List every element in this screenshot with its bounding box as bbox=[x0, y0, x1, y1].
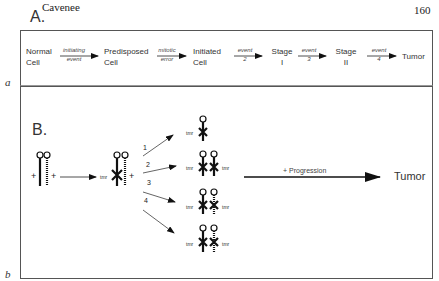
pathway-number-4: 4 bbox=[144, 197, 148, 204]
chromosome-pair-tmr bbox=[112, 152, 128, 186]
diagram-graphics bbox=[0, 0, 439, 281]
tmr-label-o2-left: tmr bbox=[186, 165, 193, 171]
chromosome-outcome-4 bbox=[199, 225, 218, 252]
tmr-label-o3-left: tmr bbox=[186, 204, 193, 210]
tmr-label-o4-left: tmr bbox=[186, 241, 193, 247]
chromosome-outcome-2 bbox=[199, 151, 218, 176]
plus-tmr-right: + bbox=[129, 171, 134, 181]
plus-right: + bbox=[51, 171, 56, 181]
chromosome-outcome-3 bbox=[199, 189, 218, 214]
progression-label: + Progression bbox=[283, 167, 326, 174]
plus-left: + bbox=[31, 171, 36, 181]
tmr-label-o2-right: tmr bbox=[222, 165, 229, 171]
chromosome-outcome-1 bbox=[199, 116, 207, 141]
tmr-label-o3-right: tmr bbox=[222, 204, 229, 210]
tmr-label-o4-right: tmr bbox=[222, 241, 229, 247]
panel-b-label: B. bbox=[32, 121, 47, 139]
tmr-label-o1: tmr bbox=[186, 130, 193, 136]
pathway-number-3: 3 bbox=[147, 179, 151, 186]
pathway-number-2: 2 bbox=[146, 161, 150, 168]
tumor-outcome-label: Tumor bbox=[394, 170, 425, 182]
chromosome-pair-normal bbox=[37, 152, 50, 186]
pathway-number-1: 1 bbox=[143, 144, 147, 151]
tmr-label-initial: tmr bbox=[100, 174, 107, 180]
